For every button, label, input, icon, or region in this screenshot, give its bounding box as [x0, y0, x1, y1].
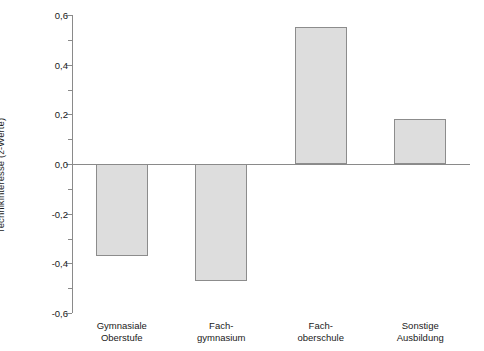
y-tick-minor: [68, 189, 72, 190]
bar: [394, 119, 446, 164]
y-tick-label: -0,4: [28, 258, 68, 269]
bar: [295, 27, 347, 164]
x-axis-category-label: Fach- oberschule: [298, 320, 344, 344]
y-tick-label: 0,4: [28, 59, 68, 70]
y-tick-minor: [68, 139, 72, 140]
plot-area: 0,60,40,20,0-0,2-0,4-0,6: [72, 15, 470, 313]
y-tick-minor: [68, 288, 72, 289]
y-tick-label: 0,6: [28, 10, 68, 21]
y-tick-label: -0,6: [28, 308, 68, 319]
y-tick-minor: [68, 90, 72, 91]
zero-baseline: [72, 164, 470, 165]
bar: [96, 164, 148, 256]
y-tick-minor: [68, 40, 72, 41]
y-tick-label: 0,0: [28, 159, 68, 170]
y-tick-minor: [68, 239, 72, 240]
x-axis-category-labels: Gymnasiale OberstufeFach- gymnasiumFach-…: [72, 320, 470, 350]
x-axis-category-label: Fach- gymnasium: [197, 320, 246, 344]
x-axis-category-label: Sonstige Ausbildung: [397, 320, 444, 344]
y-tick-label: 0,2: [28, 109, 68, 120]
bar-chart: Technikinteresse (z-Werte) 0,60,40,20,0-…: [0, 0, 484, 351]
y-tick-label: -0,2: [28, 208, 68, 219]
x-axis-category-label: Gymnasiale Oberstufe: [97, 320, 147, 344]
bar: [195, 164, 247, 281]
